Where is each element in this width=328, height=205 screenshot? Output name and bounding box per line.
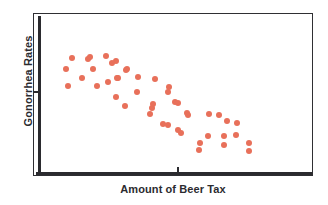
scatter-point (87, 54, 93, 60)
x-axis-label: Amount of Beer Tax (33, 183, 313, 195)
scatter-point (221, 133, 227, 139)
scatter-point (152, 76, 158, 82)
scatter-point (165, 89, 171, 95)
scatter-point (216, 112, 222, 118)
scatter-point (114, 75, 120, 81)
scatter-point (69, 55, 75, 61)
scatter-point (246, 140, 252, 146)
scatter-point (90, 66, 96, 72)
scatter-plot-figure: Gonorrhea Rates Amount of Beer Tax (0, 0, 328, 205)
scatter-points-layer (33, 13, 313, 176)
scatter-point (206, 111, 212, 117)
scatter-point (150, 101, 156, 107)
scatter-point (196, 147, 202, 153)
scatter-point (63, 66, 69, 72)
scatter-point (224, 118, 230, 124)
scatter-point (185, 112, 191, 118)
scatter-point (197, 140, 203, 146)
scatter-point (123, 67, 129, 73)
scatter-point (94, 83, 100, 89)
scatter-point (205, 133, 211, 139)
scatter-point (103, 53, 109, 59)
scatter-point (175, 100, 181, 106)
scatter-point (135, 74, 141, 80)
scatter-point (178, 130, 184, 136)
scatter-point (160, 121, 166, 127)
scatter-point (246, 148, 252, 154)
scatter-point (113, 94, 119, 100)
scatter-point (221, 142, 227, 148)
scatter-point (109, 60, 115, 66)
scatter-point (122, 103, 128, 109)
scatter-point (79, 75, 85, 81)
scatter-point (147, 111, 153, 117)
y-axis-label: Gonorrhea Rates (22, 6, 34, 156)
scatter-point (105, 79, 111, 85)
scatter-point (65, 83, 71, 89)
scatter-point (233, 132, 239, 138)
scatter-point (234, 120, 240, 126)
scatter-point (134, 89, 140, 95)
